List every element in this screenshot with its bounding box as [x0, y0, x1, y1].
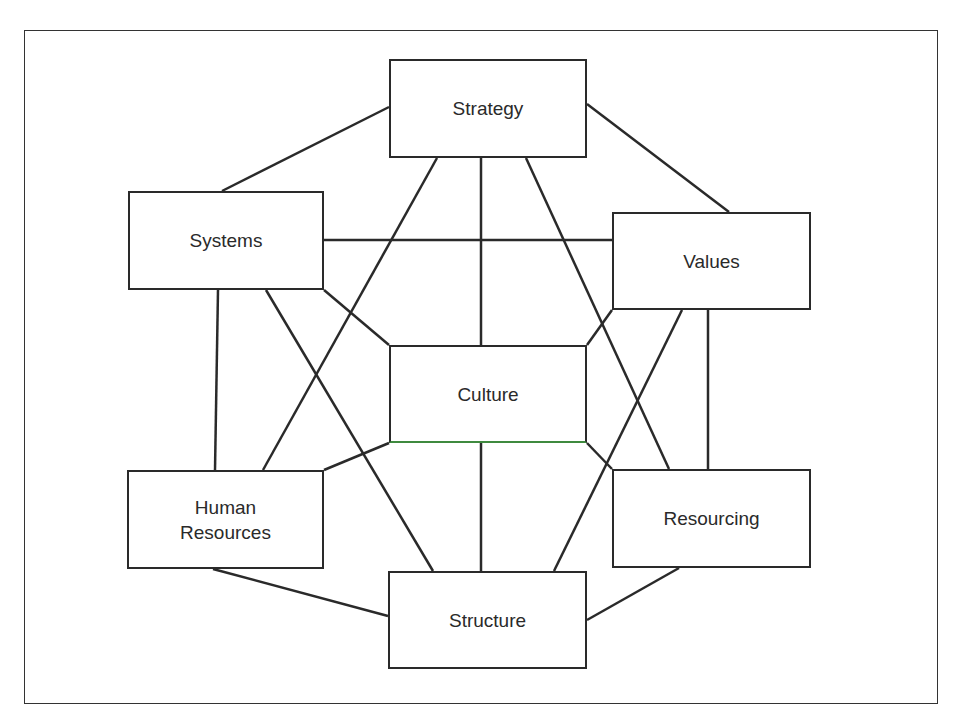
node-culture: Culture [389, 345, 587, 443]
diagram: Strategy Systems Values Culture Human Re… [0, 0, 962, 720]
node-label: Values [683, 249, 740, 274]
node-human-resources: Human Resources [127, 470, 324, 569]
node-resourcing: Resourcing [612, 469, 811, 568]
node-strategy: Strategy [389, 59, 587, 158]
node-label: Structure [449, 608, 526, 633]
node-label: Culture [457, 382, 518, 407]
node-label: Human Resources [180, 495, 271, 545]
node-structure: Structure [388, 571, 587, 669]
node-label: Systems [190, 228, 263, 253]
node-systems: Systems [128, 191, 324, 290]
node-label: Strategy [453, 96, 524, 121]
node-values: Values [612, 212, 811, 310]
node-label: Resourcing [663, 506, 759, 531]
